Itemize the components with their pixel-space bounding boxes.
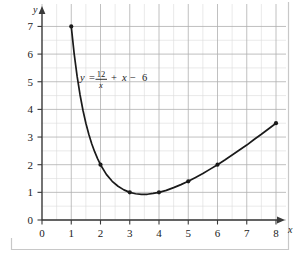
x-axis-label: x <box>287 224 293 235</box>
equation-denominator: x <box>98 80 103 90</box>
data-point <box>69 24 73 28</box>
equation-equals: = <box>89 72 95 83</box>
x-tick-label: 5 <box>186 227 192 239</box>
x-tick-label: 0 <box>39 227 45 239</box>
y-tick-label: 0 <box>28 214 34 226</box>
y-tick-label: 6 <box>28 48 34 60</box>
y-tick-label: 4 <box>28 103 34 115</box>
data-point <box>186 179 190 183</box>
x-tick-label: 4 <box>156 227 162 239</box>
y-tick-label: 1 <box>28 186 34 198</box>
equation-constant: 6 <box>142 72 147 83</box>
data-point <box>157 190 161 194</box>
data-point <box>274 121 278 125</box>
chart-figure: 012345678 01234567 y x y = 12 x + x − 6 <box>0 0 300 254</box>
chart-background <box>0 0 300 254</box>
y-tick-label: 7 <box>28 20 34 32</box>
x-tick-label: 7 <box>244 227 250 239</box>
equation-numerator: 12 <box>97 69 106 79</box>
x-tick-label: 1 <box>69 227 75 239</box>
y-tick-label: 2 <box>28 159 34 171</box>
x-tick-label: 8 <box>273 227 279 239</box>
data-point <box>128 190 132 194</box>
x-tick-label: 2 <box>98 227 104 239</box>
data-point <box>215 163 219 167</box>
function-graph: 012345678 01234567 y x y = 12 x + x − 6 <box>0 0 300 254</box>
y-tick-label: 5 <box>28 76 34 88</box>
x-tick-label: 6 <box>215 227 221 239</box>
equation-term-x: x <box>121 72 127 83</box>
data-point <box>98 163 102 167</box>
x-tick-label: 3 <box>127 227 133 239</box>
equation-lhs: y <box>79 72 85 83</box>
equation-plus: + <box>111 72 117 83</box>
y-tick-label: 3 <box>28 131 34 143</box>
equation-minus: − <box>130 72 136 83</box>
y-axis-label: y <box>32 4 38 15</box>
